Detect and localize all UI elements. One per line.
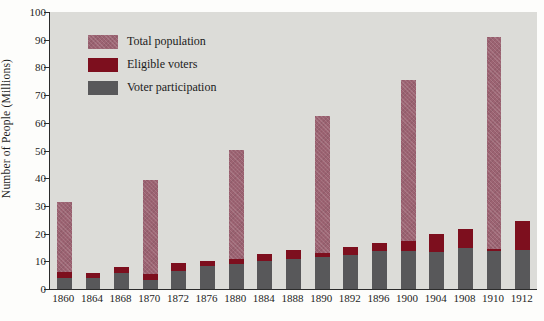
y-tick-label-70: 70	[22, 90, 46, 101]
y-tick-label-10: 10	[22, 256, 46, 267]
y-tick-label-0: 0	[22, 284, 46, 295]
y-tick-mark-50	[44, 151, 49, 152]
bar-segment-voter-participation-1876	[200, 266, 215, 289]
legend-swatch-total-population	[88, 35, 118, 49]
y-tick-mark-0	[44, 289, 49, 290]
x-tick-label-1884: 1884	[253, 293, 275, 304]
bar-group-1876[interactable]	[200, 261, 215, 289]
bar-group-1910[interactable]	[487, 37, 502, 289]
y-tick-mark-20	[44, 234, 49, 235]
legend-swatch-eligible-voters	[88, 58, 118, 72]
bar-segment-voter-participation-1892	[343, 255, 358, 289]
bar-segment-voter-participation-1870	[143, 280, 158, 289]
bar-group-1860[interactable]	[57, 202, 72, 289]
y-tick-label-90: 90	[22, 34, 46, 45]
y-tick-mark-80	[44, 67, 49, 68]
x-tick-label-1896: 1896	[367, 293, 389, 304]
bar-segment-voter-participation-1868	[114, 273, 129, 289]
bar-segment-voter-participation-1864	[86, 278, 101, 289]
y-tick-label-50: 50	[22, 145, 46, 156]
x-tick-label-1912: 1912	[511, 293, 533, 304]
y-tick-mark-100	[44, 12, 49, 13]
y-tick-label-60: 60	[22, 117, 46, 128]
bar-group-1896[interactable]	[372, 243, 387, 289]
bar-segment-voter-participation-1896	[372, 251, 387, 289]
bar-segment-voter-participation-1910	[487, 251, 502, 289]
bar-group-1890[interactable]	[315, 116, 330, 289]
y-tick-label-100: 100	[22, 7, 46, 18]
x-axis-tick-labels: 1860186418681870187218761880188418881890…	[49, 293, 536, 313]
bar-segment-voter-participation-1880	[229, 264, 244, 289]
bar-group-1872[interactable]	[171, 263, 186, 289]
x-tick-label-1892: 1892	[339, 293, 361, 304]
bar-group-1888[interactable]	[286, 250, 301, 289]
y-tick-label-40: 40	[22, 173, 46, 184]
bar-segment-voter-participation-1912	[515, 250, 530, 289]
bar-group-1908[interactable]	[458, 229, 473, 289]
bar-group-1880[interactable]	[229, 150, 244, 289]
y-tick-mark-40	[44, 178, 49, 179]
bar-group-1864[interactable]	[86, 273, 101, 289]
legend-item-1[interactable]: Eligible voters	[88, 53, 278, 76]
x-tick-label-1876: 1876	[196, 293, 218, 304]
x-tick-label-1868: 1868	[110, 293, 132, 304]
bar-segment-voter-participation-1904	[429, 252, 444, 289]
bar-group-1904[interactable]	[429, 234, 444, 289]
chart-legend: Total populationEligible votersVoter par…	[88, 30, 278, 99]
legend-label-0: Total population	[127, 34, 206, 49]
legend-item-2[interactable]: Voter participation	[88, 76, 278, 99]
y-tick-label-80: 80	[22, 62, 46, 73]
x-tick-label-1890: 1890	[310, 293, 332, 304]
y-tick-mark-30	[44, 206, 49, 207]
y-tick-mark-10	[44, 261, 49, 262]
bar-segment-total-population-1870	[143, 180, 158, 289]
bar-segment-voter-participation-1908	[458, 248, 473, 289]
bar-group-1912[interactable]	[515, 221, 530, 289]
y-axis-title: Number of People (Millions)	[0, 0, 22, 289]
bar-group-1870[interactable]	[143, 180, 158, 289]
legend-item-0[interactable]: Total population	[88, 30, 278, 53]
bar-chart: Number of People (Millions) 100908070605…	[0, 0, 544, 321]
legend-label-2: Voter participation	[127, 80, 216, 95]
x-tick-label-1860: 1860	[52, 293, 74, 304]
bar-segment-voter-participation-1900	[401, 251, 416, 289]
x-tick-label-1888: 1888	[282, 293, 304, 304]
x-tick-label-1904: 1904	[425, 293, 447, 304]
bar-group-1900[interactable]	[401, 80, 416, 289]
legend-label-1: Eligible voters	[127, 57, 197, 72]
legend-swatch-voter-participation	[88, 81, 118, 95]
bar-segment-voter-participation-1890	[315, 257, 330, 289]
x-tick-label-1910: 1910	[482, 293, 504, 304]
bar-group-1884[interactable]	[257, 254, 272, 289]
x-tick-label-1864: 1864	[81, 293, 103, 304]
y-axis-tick-labels: 1009080706050403020100	[22, 0, 46, 321]
bar-segment-voter-participation-1860	[57, 278, 72, 289]
y-tick-label-20: 20	[22, 228, 46, 239]
x-tick-label-1870: 1870	[138, 293, 160, 304]
y-tick-mark-90	[44, 40, 49, 41]
bar-group-1892[interactable]	[343, 247, 358, 289]
bar-segment-voter-participation-1872	[171, 271, 186, 289]
y-tick-label-30: 30	[22, 200, 46, 211]
x-tick-label-1872: 1872	[167, 293, 189, 304]
bar-group-1868[interactable]	[114, 267, 129, 289]
bar-segment-voter-participation-1884	[257, 261, 272, 289]
bar-segment-voter-participation-1888	[286, 259, 301, 289]
y-tick-mark-60	[44, 123, 49, 124]
x-tick-label-1908: 1908	[453, 293, 475, 304]
y-tick-mark-70	[44, 95, 49, 96]
x-tick-label-1900: 1900	[396, 293, 418, 304]
x-tick-label-1880: 1880	[224, 293, 246, 304]
